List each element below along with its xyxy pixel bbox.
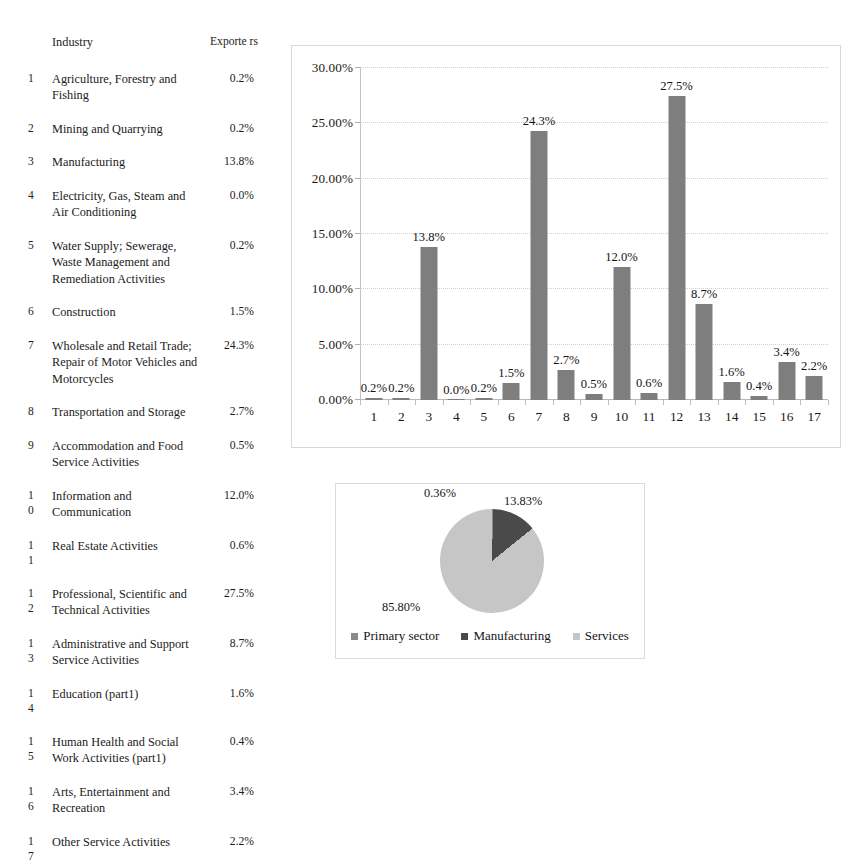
- table-cell-number: 3: [28, 154, 52, 170]
- bar: [503, 383, 520, 400]
- bar-data-label: 0.2%: [388, 381, 414, 396]
- y-axis-label: 0.00%: [318, 392, 353, 408]
- bar: [558, 370, 575, 400]
- table-cell-number: 1 6: [28, 784, 52, 815]
- table-row: 5Water Supply; Sewerage, Waste Managemen…: [28, 238, 280, 288]
- table-row: 2Mining and Quarrying0.2%: [28, 121, 280, 138]
- table-cell-exporters: 0.2%: [208, 238, 254, 254]
- x-axis-tick: [498, 400, 499, 405]
- table-cell-number: 1 4: [28, 686, 52, 717]
- pie-label-primary-sector: 0.36%: [424, 486, 456, 501]
- bar-group: 0.0%: [443, 68, 471, 400]
- x-axis-tick: [388, 400, 389, 405]
- bar-group: 0.5%: [580, 68, 608, 400]
- bar-data-label: 24.3%: [523, 114, 556, 129]
- table-cell-exporters: 0.6%: [208, 538, 254, 554]
- table-cell-industry: Human Health and Social Work Activities …: [52, 734, 208, 767]
- bar-data-label: 8.7%: [691, 287, 717, 302]
- table-cell-number: 1 3: [28, 636, 52, 667]
- table-cell-industry: Information and Communication: [52, 488, 208, 521]
- bar-data-label: 0.2%: [361, 381, 387, 396]
- pie-label-manufacturing: 13.83%: [504, 494, 542, 509]
- table-cell-number: 4: [28, 188, 52, 204]
- table-cell-number: 7: [28, 338, 52, 354]
- table-cell-exporters: 1.6%: [208, 686, 254, 702]
- bar: [751, 396, 768, 400]
- bar-data-label: 0.2%: [471, 381, 497, 396]
- x-axis-label: 7: [536, 409, 543, 425]
- table-cell-industry: Accommodation and Food Service Activitie…: [52, 438, 208, 471]
- x-axis-tick: [745, 400, 746, 405]
- pie-chart: 0.36% 13.83% 85.80% Primary sectorManufa…: [335, 483, 645, 659]
- table-cell-exporters: 24.3%: [208, 338, 254, 354]
- x-axis-tick: [718, 400, 719, 405]
- table-row: 1 0Information and Communication12.0%: [28, 488, 280, 521]
- legend-item: Services: [573, 628, 629, 644]
- legend-item: Primary sector: [351, 628, 439, 644]
- table-cell-exporters: 27.5%: [208, 586, 254, 602]
- table-cell-industry: Construction: [52, 304, 208, 321]
- table-row: 7Wholesale and Retail Trade; Repair of M…: [28, 338, 280, 388]
- bar-data-label: 0.6%: [636, 376, 662, 391]
- bar-group: 2.7%: [553, 68, 581, 400]
- table-row: 1 7Other Service Activities2.2%: [28, 834, 280, 864]
- legend-label: Primary sector: [363, 628, 439, 644]
- x-axis-tick: [443, 400, 444, 405]
- x-axis-tick: [773, 400, 774, 405]
- bar-data-label: 0.0%: [443, 383, 469, 398]
- x-axis-tick: [635, 400, 636, 405]
- table-cell-exporters: 12.0%: [208, 488, 254, 504]
- bar-data-label: 3.4%: [774, 345, 800, 360]
- bar-group: 12.0%: [608, 68, 636, 400]
- bar-group: 1.6%: [718, 68, 746, 400]
- y-axis-label: 15.00%: [312, 226, 353, 242]
- table-cell-industry: Professional, Scientific and Technical A…: [52, 586, 208, 619]
- table-cell-industry: Agriculture, Forestry and Fishing: [52, 71, 208, 104]
- bar-group: 13.8%: [415, 68, 443, 400]
- legend-swatch-icon: [351, 633, 358, 640]
- bar: [613, 267, 630, 400]
- bar-group: 1.5%: [498, 68, 526, 400]
- x-axis-label: 17: [808, 409, 821, 425]
- table-cell-number: 1 1: [28, 538, 52, 569]
- x-axis-tick: [360, 400, 361, 405]
- table-cell-industry: Mining and Quarrying: [52, 121, 208, 138]
- x-axis-label: 5: [481, 409, 488, 425]
- bar-chart: 0.00%5.00%10.00%15.00%20.00%25.00%30.00%…: [291, 45, 841, 448]
- table-cell-number: 1 5: [28, 734, 52, 765]
- table-cell-industry: Education (part1): [52, 686, 208, 703]
- table-row: 1 1Real Estate Activities0.6%: [28, 538, 280, 569]
- x-axis-label: 2: [398, 409, 405, 425]
- x-axis-tick: [415, 400, 416, 405]
- x-axis-tick: [470, 400, 471, 405]
- table-cell-number: 1 7: [28, 834, 52, 864]
- table-cell-exporters: 0.2%: [208, 121, 254, 137]
- legend-swatch-icon: [573, 633, 580, 640]
- bar-group: 0.4%: [745, 68, 773, 400]
- bar-data-label: 27.5%: [660, 79, 693, 94]
- table-row: 1Agriculture, Forestry and Fishing0.2%: [28, 71, 280, 104]
- table-body: 1Agriculture, Forestry and Fishing0.2%2M…: [28, 71, 280, 864]
- bar-data-label: 0.4%: [746, 379, 772, 394]
- x-axis-label: 4: [453, 409, 460, 425]
- table-row: 1 6Arts, Entertainment and Recreation3.4…: [28, 784, 280, 817]
- x-axis-tick: [828, 400, 829, 405]
- bar-group: 3.4%: [773, 68, 801, 400]
- x-axis-tick: [690, 400, 691, 405]
- bar: [778, 362, 795, 400]
- table-cell-number: 1 2: [28, 586, 52, 617]
- bar: [696, 304, 713, 400]
- table-row: 1 4Education (part1)1.6%: [28, 686, 280, 717]
- table-cell-industry: Water Supply; Sewerage, Waste Management…: [52, 238, 208, 288]
- y-axis-label: 25.00%: [312, 115, 353, 131]
- x-axis-label: 1: [370, 409, 377, 425]
- x-axis-tick: [580, 400, 581, 405]
- y-axis-label: 5.00%: [318, 337, 353, 353]
- x-axis-label: 14: [725, 409, 738, 425]
- table-row: 9Accommodation and Food Service Activiti…: [28, 438, 280, 471]
- table-cell-exporters: 13.8%: [208, 154, 254, 170]
- pie-chart-legend: Primary sectorManufacturingServices: [336, 628, 644, 644]
- bar: [641, 393, 658, 400]
- industry-exporters-table: Industry Exporte rs 1Agriculture, Forest…: [28, 34, 280, 864]
- table-header-row: Industry Exporte rs: [28, 34, 280, 51]
